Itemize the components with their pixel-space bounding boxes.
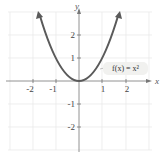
parabola-chart: -2 -1 1 2 2 1 -1 -2 x y (0, 0, 162, 155)
function-label: f(x) = x² (103, 62, 148, 75)
x-tick: -1 (49, 84, 57, 94)
x-axis-label: x (154, 76, 159, 86)
y-tick: 2 (71, 30, 76, 40)
x-tick: 1 (101, 84, 106, 94)
y-tick: -2 (68, 122, 76, 132)
y-tick: -1 (68, 99, 76, 109)
y-tick: 1 (71, 53, 76, 63)
x-tick: 2 (125, 84, 130, 94)
y-axis-label: y (74, 1, 79, 11)
x-tick: -2 (26, 84, 34, 94)
